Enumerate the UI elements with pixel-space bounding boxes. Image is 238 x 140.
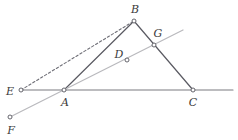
point-label-c: C: [189, 97, 197, 108]
point-label-g: G: [154, 28, 163, 39]
point-marker-d: [125, 58, 129, 62]
point-label-d: D: [115, 49, 124, 60]
point-label-a: A: [61, 97, 69, 108]
figure-canvas: [0, 0, 238, 140]
point-marker-a: [62, 88, 66, 92]
point-label-b: B: [131, 4, 139, 15]
point-marker-e: [19, 88, 23, 92]
segment-b-c: [134, 21, 193, 90]
point-label-e: E: [6, 86, 14, 97]
point-marker-b: [132, 19, 136, 23]
geometry-figure: ABCDEFG: [0, 0, 238, 140]
point-marker-g: [152, 43, 156, 47]
point-marker-f: [8, 115, 12, 119]
point-label-f: F: [7, 125, 15, 136]
transversal-line-f-g: [10, 30, 183, 117]
point-marker-c: [191, 88, 195, 92]
